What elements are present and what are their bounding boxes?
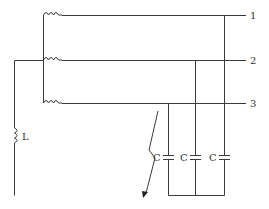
phase-label-1: 1 xyxy=(250,10,256,21)
inductor-label: L xyxy=(22,131,29,142)
capacitor-label-1: C xyxy=(209,152,217,163)
capacitor-icon-3 xyxy=(163,156,174,160)
capacitor-icon-2 xyxy=(190,156,201,160)
winding-coil-3 xyxy=(44,101,63,104)
circuit-diagram: 1 2 3 L C C C xyxy=(0,0,269,209)
neutral-wire xyxy=(15,61,44,129)
winding-coil-1 xyxy=(44,13,63,16)
phase-label-2: 2 xyxy=(250,55,256,66)
capacitor-label-2: C xyxy=(180,152,188,163)
winding-coil-2 xyxy=(44,58,63,61)
capacitor-icon-1 xyxy=(219,156,230,160)
phase-label-3: 3 xyxy=(250,98,256,109)
grounding-inductor-icon xyxy=(15,128,18,143)
